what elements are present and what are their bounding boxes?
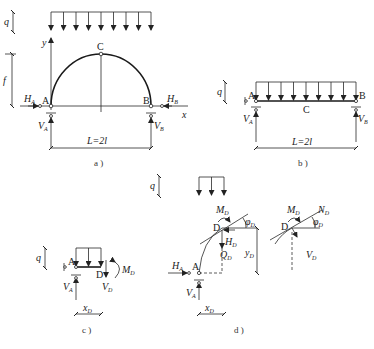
md-label: MD [215, 204, 229, 216]
nd-label: ND [317, 204, 330, 216]
vd-label-detail: VD [306, 249, 317, 261]
panel-c-beam-segment: q A D MD VD VA xD c ) [36, 248, 135, 335]
yd-label: yD [244, 247, 254, 259]
point-d-label-detail: D [281, 221, 288, 232]
phi-label-d: φD [245, 216, 256, 228]
va-label-d: VA [186, 287, 196, 299]
va-label: VA [38, 120, 48, 132]
phi-label-detail: φD [313, 216, 324, 228]
point-a-label-b: A [248, 90, 256, 101]
panel-a-arch: q f y x C [3, 12, 188, 168]
hinge-a [49, 104, 53, 108]
xd-label-d: xD [204, 302, 214, 314]
xd-label-c: xD [82, 302, 92, 314]
q-label-b: q [217, 86, 222, 97]
structural-mechanics-figure: q f y x C [0, 0, 374, 349]
va0-label: VA [243, 113, 253, 125]
load-intensity-dimension: q [4, 12, 13, 32]
caption-d: d ) [234, 325, 244, 335]
distributed-load [51, 12, 151, 30]
vb0-label: VB [358, 113, 368, 125]
q-label-d: q [150, 180, 155, 191]
point-b-label-b: B [359, 90, 366, 101]
x-axis-label: x [181, 109, 187, 120]
vd0-label: VD [102, 281, 113, 293]
q-label: q [4, 16, 9, 27]
span-label: L=2l [86, 135, 107, 146]
point-b-label: B [143, 95, 150, 106]
point-a-label-c: A [68, 256, 76, 267]
tangent-line [200, 214, 248, 244]
panel-d-arch-segment: q φD D MD HD QD yD HA A VA xD d ) [150, 176, 330, 335]
md0-label: MD [121, 264, 135, 276]
vb-label: VB [154, 120, 164, 132]
span-label-b: L=2l [291, 136, 312, 147]
rise-dimension: f [3, 54, 16, 106]
hinge-c [99, 52, 103, 56]
panel-b-beam: q A B C VA VB L=2l b ) [217, 82, 368, 168]
y-axis-label: y [41, 37, 47, 48]
hinge-b [149, 104, 153, 108]
md0-arc [115, 262, 120, 278]
hb-label: HB [166, 93, 178, 105]
point-a-label-d: A [192, 261, 200, 272]
va0-label-c: VA [63, 281, 73, 293]
point-c-label-b: C [303, 104, 310, 115]
distributed-load-b [256, 82, 356, 100]
point-a-label: A [42, 95, 50, 106]
q-label-c: q [36, 252, 41, 263]
f-label: f [3, 75, 7, 86]
section-d-detail: φD ND D MD VD [270, 204, 330, 272]
caption-a: a ) [94, 158, 103, 168]
point-c-label: C [97, 41, 104, 52]
arch-segment [199, 228, 222, 273]
point-d-label-d: D [213, 222, 220, 233]
hd-label: HD [224, 236, 237, 248]
caption-c: c ) [82, 325, 91, 335]
md-label-detail: MD [286, 204, 300, 216]
ha-label-d: HA [171, 260, 183, 272]
point-d-label-c: D [96, 269, 103, 280]
caption-b: b ) [298, 158, 308, 168]
ha-label: HA [23, 93, 35, 105]
